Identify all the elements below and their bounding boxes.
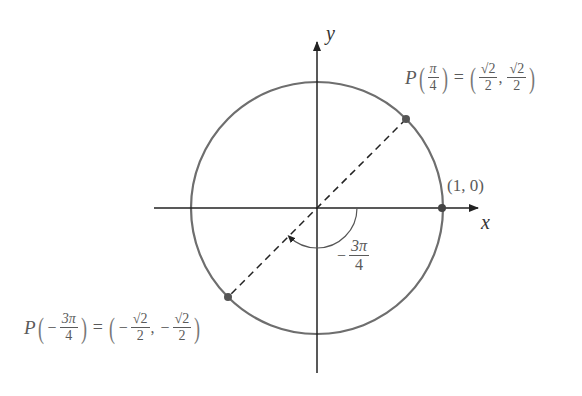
x-coordinate-fraction: √22 bbox=[479, 62, 498, 93]
x-axis-label: x bbox=[481, 211, 490, 234]
point-pi-over-4-label: P(π4)=(√22,√22) bbox=[405, 62, 537, 93]
point-pi-over-4-dot bbox=[402, 115, 410, 123]
argument-fraction: π4 bbox=[428, 62, 439, 93]
point-1-0-dot bbox=[438, 204, 446, 212]
y-axis-label: y bbox=[326, 22, 335, 45]
y-coordinate-fraction: √22 bbox=[173, 312, 192, 343]
point-minus-3pi-over-4-label: P(−3π4)=(−√22,−√22) bbox=[24, 312, 202, 343]
point-1-0-label: (1, 0) bbox=[447, 176, 484, 196]
x-coordinate-fraction: √22 bbox=[131, 312, 150, 343]
p-function-symbol: P bbox=[24, 317, 36, 338]
p-function-symbol: P bbox=[405, 67, 417, 88]
y-coordinate-fraction: √22 bbox=[507, 62, 526, 93]
argument-fraction: 3π4 bbox=[60, 312, 78, 343]
angle-label: −3π4 bbox=[335, 238, 370, 273]
point-minus-3pi-over-4-dot bbox=[224, 293, 232, 301]
angle-fraction: 3π4 bbox=[349, 238, 369, 273]
